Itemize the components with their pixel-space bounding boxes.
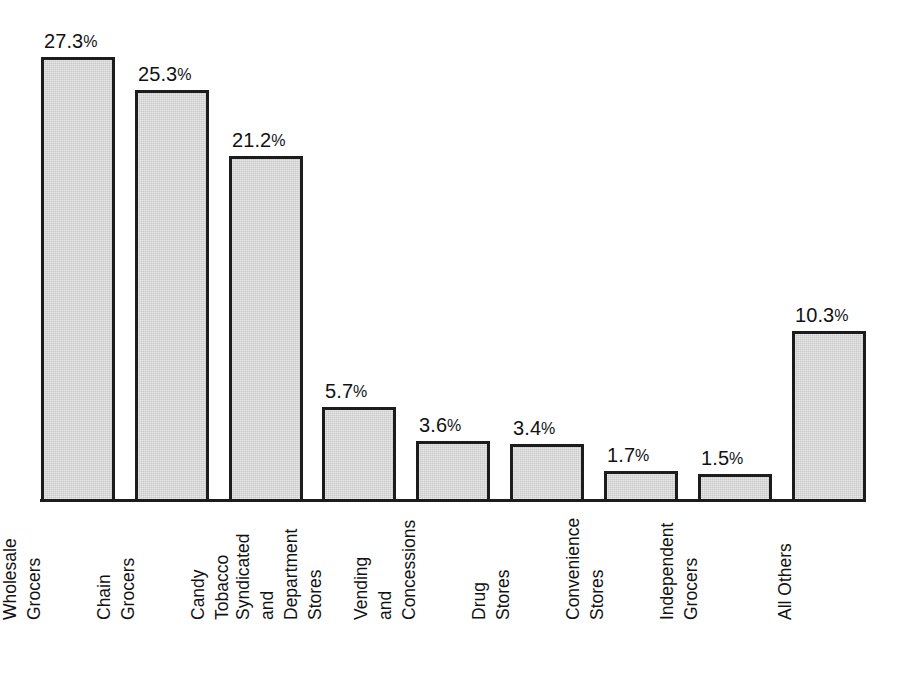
bar-value-label: 1.5% [701,448,743,469]
x-label-line: Independent [655,523,679,620]
bar-value-label: 25.3% [138,64,192,85]
bar-chain-grocers[interactable] [135,90,209,502]
percent-sign: % [834,307,848,324]
x-label-line: Grocers [679,523,703,620]
x-label-line: Convenience [561,518,585,620]
x-label-line: Concessions [397,520,421,620]
bar-syndicated-and-department-stores[interactable] [322,407,396,502]
x-label-independent-grocers: Independent Grocers [655,523,703,620]
x-label-candy-tobacco: Candy Tobacco [186,555,234,620]
x-label-line: Syndicated [231,529,255,620]
x-label-chain-grocers: Chain Grocers [92,558,140,620]
x-label-syndicated-and-department-stores: Syndicated and Department Stores [231,529,327,620]
x-label-line: Candy [186,555,210,620]
x-label-line: Chain [92,558,116,620]
bar-value-label: 3.4% [513,418,555,439]
x-label-line: and [255,529,279,620]
bar-candy-tobacco[interactable] [229,156,303,502]
bar-wholesale-grocers[interactable] [41,57,115,502]
x-label-line: Stores [303,529,327,620]
x-label-vending-and-concessions: Vending and Concessions [349,520,421,620]
bar-chart: 27.3% 25.3% 21.2% 5.7% 3.6% 3.4% 1.7% 1.… [0,0,912,678]
percent-sign: % [353,383,367,400]
x-label-convenience-stores: Convenience Stores [561,518,609,620]
bar-value-label: 1.7% [607,445,649,466]
bar-value-label: 10.3% [795,305,849,326]
x-label-line: Drug [467,569,491,620]
x-label-line: Grocers [22,538,46,620]
percent-sign: % [447,417,461,434]
bar-convenience-stores[interactable] [604,471,678,502]
x-label-line: Wholesale [0,538,22,620]
bar-value-label: 21.2% [232,130,286,151]
bar-vending-and-concessions[interactable] [416,441,490,502]
percent-sign: % [729,450,743,467]
bar-independent-grocers[interactable] [698,474,772,502]
percent-sign: % [177,66,191,83]
x-label-line: Stores [491,569,515,620]
bar-value-label: 27.3% [44,31,98,52]
bar-drug-stores[interactable] [510,444,584,502]
percent-sign: % [635,447,649,464]
bar-value-label: 3.6% [419,415,461,436]
bar-all-others[interactable] [792,331,866,502]
percent-sign: % [83,33,97,50]
x-label-all-others: All Others [773,543,797,620]
percent-sign: % [541,420,555,437]
x-axis-baseline [40,499,863,502]
x-label-line: Stores [585,518,609,620]
x-label-wholesale-grocers: Wholesale Grocers [0,538,46,620]
x-label-line: Department [279,529,303,620]
percent-sign: % [271,132,285,149]
x-axis-labels: Wholesale Grocers Chain Grocers Candy To… [0,503,912,678]
x-label-line: All Others [773,543,797,620]
x-label-drug-stores: Drug Stores [467,569,515,620]
plot-area: 27.3% 25.3% 21.2% 5.7% 3.6% 3.4% 1.7% 1.… [0,0,912,510]
x-label-line: Grocers [116,558,140,620]
x-label-line: and [373,520,397,620]
bar-value-label: 5.7% [325,381,367,402]
x-label-line: Vending [349,520,373,620]
